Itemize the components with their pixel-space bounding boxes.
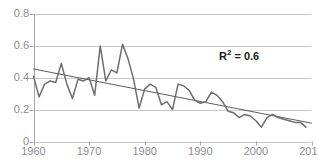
x-axis: 1960 1970 1980 1990 2000 2010: [0, 142, 317, 161]
x-tick-label-2: 1980: [125, 145, 165, 158]
r-squared-prefix: R: [219, 50, 227, 62]
data-series-line: [34, 44, 306, 127]
chart-container: 0.8 0.6 0.4 0.2 0 1960 1970 1980 1990 20…: [0, 0, 317, 161]
trendline: [34, 69, 312, 123]
x-tick-label-0: 1960: [14, 145, 54, 158]
gridlines: [34, 15, 312, 143]
r-squared-value: = 0.6: [231, 50, 259, 62]
x-tick-label-5: 2010: [292, 145, 318, 158]
axis-ticks: [30, 15, 313, 146]
plot-area: [0, 0, 317, 161]
r-squared-annotation: R2 = 0.6: [219, 50, 259, 62]
x-tick-label-3: 1990: [180, 145, 220, 158]
x-tick-label-4: 2000: [236, 145, 276, 158]
x-tick-label-1: 1970: [69, 145, 109, 158]
